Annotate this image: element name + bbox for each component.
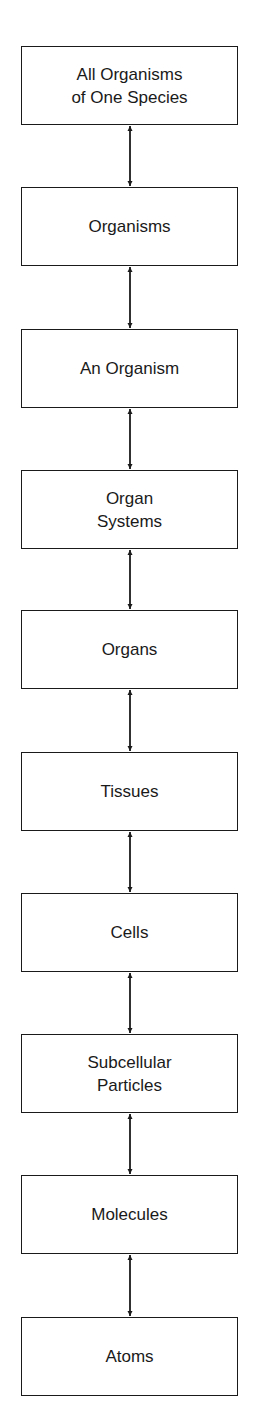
connector-arrows	[0, 0, 255, 1415]
